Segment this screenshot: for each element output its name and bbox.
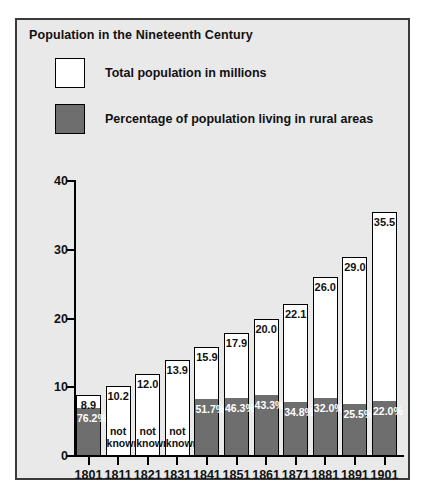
x-axis-tick-label-1811: 1811 bbox=[102, 468, 134, 482]
x-axis-tick bbox=[265, 457, 267, 465]
bar-rural-percentage-label: 22.0% bbox=[373, 405, 396, 417]
x-axis-tick bbox=[206, 457, 208, 465]
bar-1821: notknown12.0 bbox=[135, 374, 160, 457]
x-axis-tick-label-1871: 1871 bbox=[280, 468, 312, 482]
x-axis-tick-label-1891: 1891 bbox=[339, 468, 371, 482]
x-axis-tick bbox=[324, 457, 326, 465]
bar-not-known-label: notknown bbox=[107, 425, 130, 449]
x-axis-tick bbox=[354, 457, 356, 465]
bar-rural-percentage-label: 76.2% bbox=[77, 412, 100, 424]
bar-total-label: 22.1 bbox=[284, 308, 307, 320]
bar-rural-percentage-label: 34.8% bbox=[284, 406, 307, 418]
bar-total-label: 12.0 bbox=[136, 378, 159, 390]
bar-total-label: 10.2 bbox=[107, 390, 130, 402]
x-axis-tick bbox=[176, 457, 178, 465]
x-axis-tick-label-1841: 1841 bbox=[191, 468, 223, 482]
bar-total-label: 26.0 bbox=[314, 281, 337, 293]
bar-rural-percentage-label: 43.3% bbox=[255, 399, 278, 411]
x-axis-tick-label-1821: 1821 bbox=[132, 468, 164, 482]
bar-1901: 22.0%35.5 bbox=[372, 212, 397, 456]
bar-rural-percentage-label: 25.5% bbox=[343, 408, 366, 420]
x-axis-tick-label-1881: 1881 bbox=[309, 468, 341, 482]
x-axis-tick bbox=[384, 457, 386, 465]
x-axis-tick-label-1831: 1831 bbox=[161, 468, 193, 482]
x-axis-tick bbox=[147, 457, 149, 465]
y-axis-tick-label: 10 bbox=[28, 380, 68, 394]
x-axis-tick-label-1901: 1901 bbox=[369, 468, 401, 482]
bar-total-label: 29.0 bbox=[343, 261, 366, 273]
x-axis-tick bbox=[88, 457, 90, 465]
bar-total-label: 20.0 bbox=[255, 323, 278, 335]
y-axis-tick-label: 0 bbox=[28, 449, 68, 463]
x-axis-tick-label-1851: 1851 bbox=[221, 468, 253, 482]
bar-not-known-label: notknown bbox=[166, 425, 189, 449]
not-known-line1: not bbox=[169, 425, 185, 437]
y-axis-tick-label: 40 bbox=[28, 174, 68, 188]
chart-figure: Population in the Nineteenth Century Tot… bbox=[15, 18, 410, 480]
bar-total-label: 35.5 bbox=[373, 216, 396, 228]
bar-total-label: 13.9 bbox=[166, 364, 189, 376]
bar-1851: 46.3%17.9 bbox=[224, 333, 249, 456]
bar-1881: 32.0%26.0 bbox=[313, 277, 338, 456]
x-axis-tick-label-1801: 1801 bbox=[73, 468, 105, 482]
bar-total-label: 15.9 bbox=[195, 351, 218, 363]
bar-rural-percentage-label: 51.7% bbox=[195, 403, 218, 415]
bar-1861: 43.3%20.0 bbox=[254, 319, 279, 457]
bar-1891: 25.5%29.0 bbox=[342, 257, 367, 456]
bar-1811: notknown10.2 bbox=[106, 386, 131, 456]
x-axis-tick bbox=[236, 457, 238, 465]
bar-1871: 34.8%22.1 bbox=[283, 304, 308, 456]
bar-1801: 76.2%8.9 bbox=[76, 395, 101, 456]
not-known-line1: not bbox=[110, 425, 126, 437]
bar-total-label: 8.9 bbox=[77, 399, 100, 411]
bar-rural-percentage-label: 46.3% bbox=[225, 402, 248, 414]
bar-rural-percentage-label: 32.0% bbox=[314, 402, 337, 414]
x-axis-tick bbox=[295, 457, 297, 465]
bar-1841: 51.7%15.9 bbox=[194, 347, 219, 456]
y-axis-tick-label: 30 bbox=[28, 243, 68, 257]
plot-area: 010203040 180118111821183118411851186118… bbox=[17, 20, 412, 482]
bar-1831: notknown13.9 bbox=[165, 360, 190, 456]
x-axis-tick-label-1861: 1861 bbox=[250, 468, 282, 482]
not-known-line1: not bbox=[140, 425, 156, 437]
bar-total-label: 17.9 bbox=[225, 337, 248, 349]
y-axis-tick-label: 20 bbox=[28, 312, 68, 326]
bar-not-known-label: notknown bbox=[136, 425, 159, 449]
x-axis-tick bbox=[117, 457, 119, 465]
